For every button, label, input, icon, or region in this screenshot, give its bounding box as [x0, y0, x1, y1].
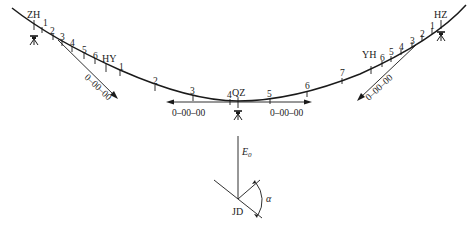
svg-text:1: 1: [119, 62, 124, 72]
left-spiral-ticks: 1 2 3 4 5 6: [42, 18, 98, 64]
azimuth-label: E0: [241, 146, 252, 159]
svg-text:5: 5: [82, 45, 87, 55]
label-hy: HY: [102, 53, 116, 64]
theodolite-icon: [234, 111, 242, 120]
hz-orientation-label: 0–00–00: [364, 72, 395, 102]
svg-text:4: 4: [399, 42, 404, 52]
deflection-angle-diagram: E0 α JD: [214, 136, 272, 218]
svg-text:7: 7: [340, 68, 345, 78]
svg-text:4: 4: [70, 38, 75, 48]
angle-alpha-label: α: [266, 193, 272, 204]
theodolite-icon: [30, 36, 38, 45]
svg-text:2: 2: [50, 26, 55, 36]
qz-left-orientation-label: 0–00–00: [172, 108, 206, 118]
svg-text:1: 1: [43, 18, 48, 28]
svg-text:3: 3: [190, 86, 195, 96]
svg-text:6: 6: [380, 53, 385, 63]
svg-text:6: 6: [93, 51, 98, 61]
label-qz: QZ: [232, 87, 245, 98]
label-yh: YH: [362, 49, 376, 60]
theodolite-icon: [437, 32, 445, 41]
svg-text:3: 3: [60, 32, 65, 42]
curve-layout-diagram: ZH 1 2 3 4 5 6 HY 0–00–00 1 2 3 4: [0, 0, 472, 232]
svg-text:5: 5: [267, 89, 272, 99]
svg-text:6: 6: [305, 81, 310, 91]
label-zh: ZH: [27, 9, 40, 20]
zh-orientation-label: 0–00–00: [83, 72, 114, 102]
label-hz: HZ: [434, 9, 447, 20]
svg-text:3: 3: [410, 36, 415, 46]
svg-text:2: 2: [420, 29, 425, 39]
svg-text:5: 5: [389, 47, 394, 57]
label-jd: JD: [232, 206, 243, 217]
svg-text:1: 1: [430, 21, 435, 31]
qz-right-orientation-label: 0–00–00: [270, 108, 304, 118]
svg-text:2: 2: [153, 76, 158, 86]
circular-curve-ticks: 1 2 3 4 5 6 7: [119, 62, 345, 105]
